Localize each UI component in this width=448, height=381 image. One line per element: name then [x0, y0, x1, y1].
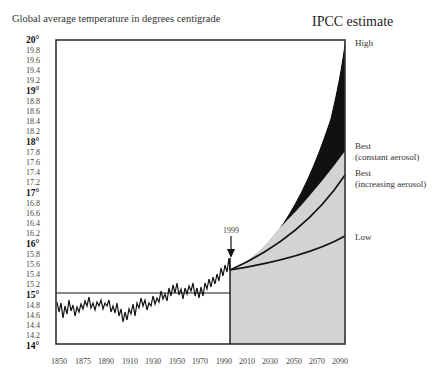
- y-tick: 14.4: [26, 322, 40, 330]
- x-tick: 1850: [51, 357, 67, 366]
- y-tick: 16.8: [26, 200, 40, 208]
- label-best-constant-2: (constant aerosol): [355, 152, 419, 163]
- x-tick: 2010: [239, 357, 255, 366]
- label-best-increasing-1: Best: [355, 168, 371, 179]
- observed-line: [57, 258, 230, 322]
- y-tick: 15.4: [26, 271, 40, 279]
- chart-plot: [0, 0, 448, 381]
- x-tick: 2050: [286, 357, 302, 366]
- y-tick: 19°: [26, 87, 39, 95]
- x-tick: 1950: [169, 357, 185, 366]
- y-tick: 17.2: [26, 179, 40, 187]
- x-tick: 1890: [98, 357, 114, 366]
- label-best-constant-1: Best: [355, 141, 371, 152]
- x-tick: 1875: [75, 357, 91, 366]
- y-tick: 18.4: [26, 118, 40, 126]
- x-tick: 1990: [216, 357, 232, 366]
- x-tick: 1910: [122, 357, 138, 366]
- y-tick: 17.8: [26, 149, 40, 157]
- label-high: High: [355, 38, 373, 49]
- y-tick: 14.6: [26, 312, 40, 320]
- y-tick: 19.6: [26, 57, 40, 65]
- y-tick: 17.6: [26, 159, 40, 167]
- y-tick: 16.6: [26, 210, 40, 218]
- x-tick: 1970: [192, 357, 208, 366]
- year-marker-label: 1999: [223, 226, 239, 235]
- y-tick: 15.2: [26, 281, 40, 289]
- y-tick: 20°: [26, 36, 39, 44]
- y-tick: 14.8: [26, 302, 40, 310]
- y-tick: 17.4: [26, 169, 40, 177]
- y-tick: 14.2: [26, 332, 40, 340]
- y-tick: 19.8: [26, 47, 40, 55]
- y-tick: 19.2: [26, 77, 40, 85]
- y-tick: 17°: [26, 189, 39, 197]
- x-tick: 1930: [145, 357, 161, 366]
- y-tick: 16°: [26, 240, 39, 248]
- y-tick: 14°: [26, 342, 39, 350]
- y-tick: 18°: [26, 138, 39, 146]
- y-tick: 15.6: [26, 261, 40, 269]
- y-tick: 18.2: [26, 128, 40, 136]
- x-tick: 2070: [309, 357, 325, 366]
- y-tick: 18.6: [26, 108, 40, 116]
- y-tick: 15°: [26, 291, 39, 299]
- y-tick: 15.8: [26, 251, 40, 259]
- y-tick: 16.4: [26, 220, 40, 228]
- y-tick: 16.2: [26, 230, 40, 238]
- x-tick: 2090: [332, 357, 348, 366]
- y-tick: 18.8: [26, 98, 40, 106]
- label-low: Low: [355, 232, 372, 243]
- x-tick: 2030: [262, 357, 278, 366]
- label-best-increasing-2: (increasing aerosol): [355, 179, 426, 190]
- y-tick: 19.4: [26, 67, 40, 75]
